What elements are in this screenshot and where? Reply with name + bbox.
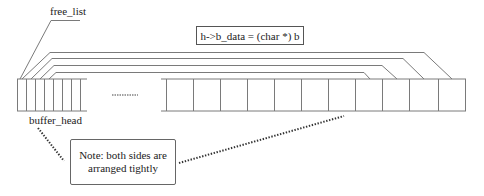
note-line-1: Note: both sides are xyxy=(79,149,167,162)
b-data-pointers xyxy=(22,53,452,80)
buffer-head-label: buffer_head xyxy=(29,114,82,126)
formula-box: h->b_data = (char *) b xyxy=(196,26,304,45)
buffer-head-array xyxy=(17,79,87,111)
free-list-pointer xyxy=(20,21,80,80)
note-box: Note: both sides are arranged tightly xyxy=(70,139,176,185)
note-line-2: arranged tightly xyxy=(88,162,158,175)
formula-text: h->b_data = (char *) b xyxy=(200,30,299,42)
free-list-label: free_list xyxy=(50,5,86,17)
data-block-array xyxy=(161,79,466,111)
